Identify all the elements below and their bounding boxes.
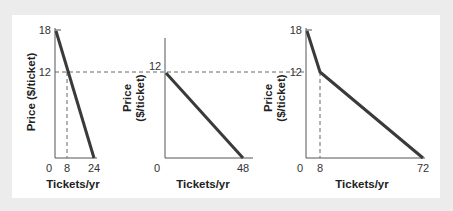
y-tick-12: 12	[290, 66, 302, 78]
x-axis-label: Tickets/yr	[335, 178, 389, 190]
x-tick-72: 72	[417, 162, 429, 174]
chart-1: 18 12 0 8 24 Tickets/yr Price ($/ticket)	[25, 24, 100, 190]
x-tick-0: 0	[297, 162, 303, 174]
y-axis-label-line2: ($/ticket)	[275, 74, 287, 121]
market-demand-line	[307, 31, 423, 158]
x-tick-8: 8	[317, 162, 323, 174]
y-tick-12: 12	[149, 60, 161, 72]
x-axis-label: Tickets/yr	[176, 178, 230, 190]
x-tick-0: 0	[154, 162, 160, 174]
x-tick-48: 48	[237, 162, 249, 174]
chart-2: 12 0 48 Tickets/yr Price ($/ticket)	[121, 38, 253, 190]
x-tick-0: 0	[46, 162, 52, 174]
x-tick-24: 24	[88, 162, 100, 174]
y-tick-18: 18	[290, 24, 302, 36]
x-tick-8: 8	[64, 162, 70, 174]
y-tick-18: 18	[39, 24, 51, 36]
demand-line-2	[166, 73, 243, 158]
demand-line-1	[56, 31, 94, 158]
chart-3: 18 12 0 8 72 Tickets/yr Price ($/ticket)	[262, 24, 429, 190]
y-tick-12: 12	[39, 66, 51, 78]
x-axis-label: Tickets/yr	[46, 178, 100, 190]
y-axis-label-line1: Price	[262, 84, 274, 112]
y-axis-label-line2: ($/ticket)	[134, 74, 146, 121]
demand-charts: 18 12 0 8 24 Tickets/yr Price ($/ticket)…	[0, 0, 453, 211]
y-axis-label: Price ($/ticket)	[25, 53, 37, 132]
y-axis-label-line1: Price	[121, 84, 133, 112]
